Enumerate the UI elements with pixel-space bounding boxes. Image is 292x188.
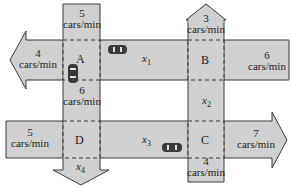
variable-x3: x3	[142, 133, 151, 148]
flow-label-a-south: 6 cars/min	[60, 85, 104, 107]
intersection-label-a: A	[76, 52, 85, 67]
flow-label-bottom-into-c: 4 cars/min	[186, 156, 226, 178]
intersection-label-c: C	[201, 133, 209, 148]
flow-label-east-into-b: 6 cars/min	[245, 50, 289, 72]
variable-x4: x4	[76, 160, 85, 175]
variable-x2: x2	[202, 94, 211, 109]
intersection-label-d: D	[75, 133, 84, 148]
car-icon-bottom-road	[162, 143, 182, 152]
flow-label-west-into-d: 5 cars/min	[8, 127, 52, 149]
flow-label-east-out-c: 7 cars/min	[234, 128, 278, 150]
flow-label-top-into-a: 5 cars/min	[62, 8, 102, 30]
car-icon-top-road	[108, 45, 127, 54]
flow-label-north-out-b: 3 cars/min	[186, 13, 226, 35]
flow-label-west-out-a: 4 cars/min	[16, 48, 60, 70]
variable-x1: x1	[142, 52, 151, 67]
intersection-label-b: B	[201, 53, 209, 68]
traffic-network-diagram	[0, 0, 292, 188]
